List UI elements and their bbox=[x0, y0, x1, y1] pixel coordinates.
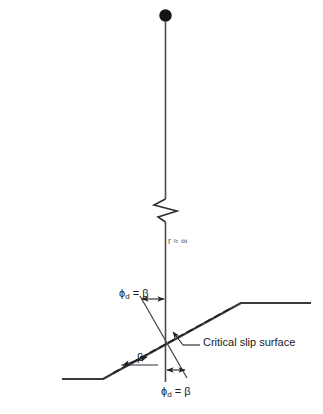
slope-stability-figure: r ≈ ∞ ϕd = β ϕd = β β Critical slip surf… bbox=[0, 0, 323, 414]
beta-angle-label: β bbox=[137, 352, 143, 363]
phi-d-bottom-label: ϕd = β bbox=[161, 386, 191, 399]
center-dot-icon bbox=[159, 9, 171, 21]
zigzag-break-icon bbox=[154, 199, 177, 222]
phi-equation-top: = β bbox=[130, 287, 149, 299]
radius-label: r ≈ ∞ bbox=[168, 237, 187, 246]
phi-equation-bottom: = β bbox=[172, 385, 191, 397]
figure-canvas bbox=[0, 0, 323, 414]
critical-slip-surface-label: Critical slip surface bbox=[203, 337, 295, 348]
phi-d-top-label: ϕd = β bbox=[119, 288, 149, 301]
beta-angle-arrow bbox=[123, 357, 147, 365]
